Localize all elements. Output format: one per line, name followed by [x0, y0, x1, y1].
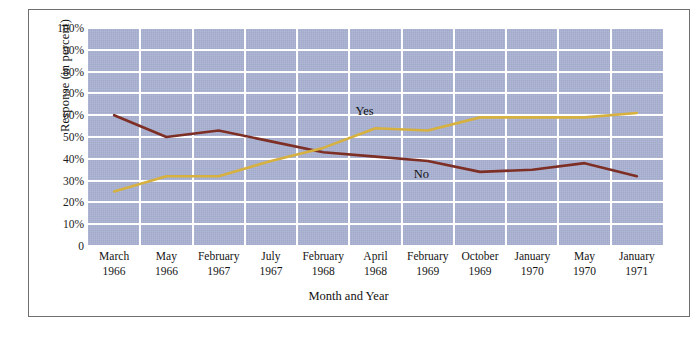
y-tick-label: 30%	[63, 175, 84, 187]
x-tick-label: May1966	[155, 249, 178, 279]
x-tick-label: January1970	[514, 249, 550, 279]
x-tick-year: 1968	[363, 264, 387, 279]
yes-series-line	[114, 113, 637, 191]
figure-right-frame	[689, 9, 690, 317]
x-tick-month: May	[155, 249, 178, 264]
x-tick-label: February1967	[198, 249, 240, 279]
x-tick-month: February	[302, 249, 344, 264]
y-tick-label: 80%	[63, 66, 84, 78]
x-tick-year: 1966	[99, 264, 129, 279]
x-tick-label: February1968	[302, 249, 344, 279]
x-axis-tick-labels: March1966May1966February1967July1967Febr…	[88, 249, 663, 289]
y-tick-label: 60%	[63, 109, 84, 121]
y-tick-label: 40%	[63, 153, 84, 165]
x-tick-label: March1966	[99, 249, 129, 279]
x-tick-label: October1969	[462, 249, 499, 279]
x-tick-year: 1968	[302, 264, 344, 279]
yes-series-label: Yes	[356, 104, 374, 119]
x-tick-label: July1967	[259, 249, 282, 279]
x-tick-month: March	[99, 249, 129, 264]
x-tick-month: January	[514, 249, 550, 264]
y-tick-label: 90%	[63, 44, 84, 56]
x-tick-month: October	[462, 249, 499, 264]
x-tick-month: May	[573, 249, 596, 264]
x-tick-year: 1967	[198, 264, 240, 279]
x-tick-year: 1966	[155, 264, 178, 279]
x-tick-year: 1969	[407, 264, 449, 279]
figure-container: Response (in percent) 100%90%80%70%60%50…	[0, 0, 697, 341]
y-tick-label: 50%	[63, 131, 84, 143]
x-tick-month: April	[363, 249, 387, 264]
plot-area: Yes No	[88, 28, 663, 246]
x-tick-month: February	[407, 249, 449, 264]
x-tick-month: February	[198, 249, 240, 264]
series-svg	[88, 28, 663, 246]
x-tick-year: 1970	[514, 264, 550, 279]
x-tick-label: April1968	[363, 249, 387, 279]
x-tick-month: July	[259, 249, 282, 264]
no-series-line	[114, 115, 637, 176]
credit-wrapper: © Cengage Learning	[0, 232, 24, 312]
x-tick-label: January1971	[619, 249, 655, 279]
figure-left-frame	[28, 9, 29, 317]
x-tick-year: 1971	[619, 264, 655, 279]
y-tick-label: 20%	[63, 196, 84, 208]
x-tick-label: May1970	[573, 249, 596, 279]
figure-bottom-rule	[28, 316, 690, 317]
y-tick-label: 100%	[57, 22, 84, 34]
y-tick-label: 10%	[63, 218, 84, 230]
no-series-label: No	[414, 167, 429, 182]
x-tick-month: January	[619, 249, 655, 264]
y-tick-label: 0	[78, 240, 84, 252]
x-axis-title: Month and Year	[0, 289, 697, 304]
figure-top-rule	[28, 9, 690, 10]
x-tick-year: 1970	[573, 264, 596, 279]
x-tick-year: 1967	[259, 264, 282, 279]
x-tick-year: 1969	[462, 264, 499, 279]
y-axis-tick-labels: 100%90%80%70%60%50%40%30%20%10%0	[30, 28, 84, 246]
y-tick-label: 70%	[63, 87, 84, 99]
x-tick-label: February1969	[407, 249, 449, 279]
